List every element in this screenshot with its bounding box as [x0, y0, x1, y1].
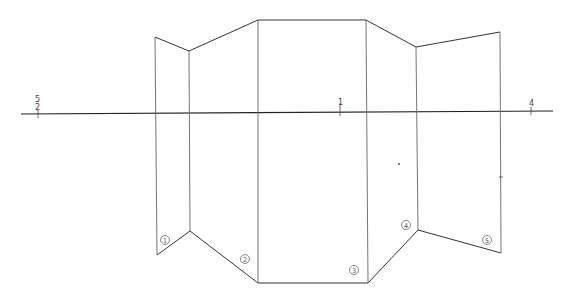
panel-label-3: 3	[350, 266, 359, 275]
svg-text:4: 4	[404, 222, 408, 230]
top-edge	[155, 20, 500, 51]
svg-text:3: 3	[352, 267, 356, 275]
diagram-canvas: 5 2 1 4 1 2 3 4 5	[0, 0, 572, 299]
label-4: 4	[529, 99, 534, 108]
panel-edge-1	[189, 51, 190, 231]
panel-label-4: 4	[402, 221, 411, 230]
panel-edge-0	[155, 37, 157, 255]
panel-label-1: 1	[161, 236, 170, 245]
label-2: 2	[35, 103, 40, 112]
bottom-edge	[157, 230, 501, 283]
panel-label-5: 5	[483, 236, 492, 245]
mark-dot	[398, 163, 400, 165]
label-1: 1	[338, 98, 343, 107]
panel-edge-3	[366, 20, 368, 283]
panel-edge-5	[500, 32, 501, 253]
panel-label-2: 2	[241, 255, 250, 264]
svg-text:1: 1	[163, 237, 167, 245]
svg-text:5: 5	[485, 237, 489, 245]
panel-edge-4	[416, 47, 418, 230]
svg-text:2: 2	[243, 256, 247, 264]
horizon-line	[21, 111, 553, 114]
